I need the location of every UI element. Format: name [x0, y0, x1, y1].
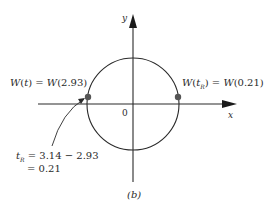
annotation-arrow-icon [78, 98, 85, 104]
unit-circle-diagram [0, 0, 272, 212]
y-axis-arrow-icon [129, 14, 137, 28]
annotation-line-1: tR = 3.14 − 2.93 [16, 151, 99, 163]
figure-caption: (b) [127, 190, 141, 200]
left-point-dot [85, 94, 91, 100]
x-axis-label: x [228, 111, 233, 120]
y-axis-label: y [122, 14, 127, 23]
right-point-dot [175, 94, 181, 100]
x-axis-arrow-icon [222, 100, 237, 108]
right-point-label: W(tR) = W(0.21) [182, 78, 264, 90]
annotation-line-2: = 0.21 [27, 164, 61, 174]
origin-label: 0 [122, 109, 128, 118]
annotation-leader-line [52, 99, 84, 146]
left-point-label: W(t) = W(2.93) [10, 78, 87, 88]
